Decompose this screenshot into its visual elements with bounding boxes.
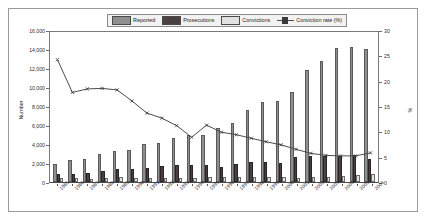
bar-group — [214, 32, 229, 182]
y-tick-mark-right — [379, 158, 382, 159]
y-tick-label-right: 0 — [384, 180, 404, 186]
bar-group — [170, 32, 185, 182]
bar-convic — [238, 177, 241, 182]
bar-group — [347, 32, 362, 182]
x-axis: 1985198619871988198919901991199219931994… — [49, 184, 379, 222]
bar-group — [229, 32, 244, 182]
bar-convic — [371, 174, 374, 182]
bar-group — [125, 32, 140, 182]
y-tick-label-right: 25 — [384, 53, 404, 59]
bar-group — [332, 32, 347, 182]
bar-convic — [208, 177, 211, 183]
bar-convic — [297, 178, 300, 182]
y-tick-mark-right — [379, 132, 382, 133]
bar-convic — [327, 177, 330, 182]
chart-figure: Reported Prosecutions Convictions Convic… — [8, 8, 418, 212]
bar-group — [362, 32, 377, 182]
bar-group — [288, 32, 303, 182]
bar-group — [318, 32, 333, 182]
bar-group — [258, 32, 273, 182]
bar-group — [140, 32, 155, 182]
y-tick-mark-right — [379, 56, 382, 57]
y-tick-mark-right — [379, 31, 382, 32]
bar-convic — [267, 177, 270, 183]
bar-group — [199, 32, 214, 182]
bar-convic — [179, 178, 182, 182]
bar-group — [95, 32, 110, 182]
bar-group — [110, 32, 125, 182]
bar-convic — [342, 176, 345, 182]
bar-group — [66, 32, 81, 182]
bar-convic — [253, 177, 256, 182]
plot-area — [49, 31, 379, 183]
bar-convic — [164, 178, 167, 182]
bar-convic — [193, 178, 196, 182]
bar-group — [303, 32, 318, 182]
bar-group — [244, 32, 259, 182]
y-tick-label-right: 10 — [384, 129, 404, 135]
bar-group — [184, 32, 199, 182]
y-tick-label-right: 20 — [384, 79, 404, 85]
bar-groups — [50, 32, 378, 182]
bar-group — [155, 32, 170, 182]
bar-convic — [223, 177, 226, 182]
bar-group — [273, 32, 288, 182]
y-tick-label-right: 15 — [384, 104, 404, 110]
bar-convic — [312, 177, 315, 182]
bar-convic — [282, 177, 285, 182]
bar-group — [81, 32, 96, 182]
y-tick-label-right: 30 — [384, 28, 404, 34]
bar-convic — [356, 175, 359, 182]
bar-group — [51, 32, 66, 182]
y-tick-mark-right — [379, 107, 382, 108]
y-tick-mark-right — [379, 82, 382, 83]
y-tick-label-right: 5 — [384, 155, 404, 161]
